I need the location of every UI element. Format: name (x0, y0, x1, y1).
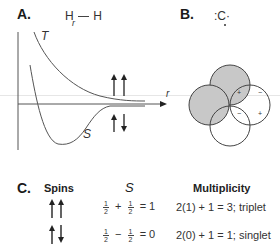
sign-top-left: + (237, 89, 241, 96)
axis-label-r: r (166, 88, 169, 99)
spin-arrows (45, 196, 75, 246)
orbital-lobe-left (189, 85, 229, 125)
carbon-species: :C· (214, 9, 230, 23)
multiplicity-row-1: 2(1) + 1 = 3; triplet (176, 201, 266, 213)
orbital-lobe-bottom (210, 106, 250, 146)
header-s: S (125, 180, 134, 195)
multiplicity-row-2: 2(0) + 1 = 1; singlet (176, 229, 271, 241)
p-orbital-diagram (180, 55, 280, 155)
s-row-1: 12 + 12 = 1 (103, 200, 155, 215)
fraction-b: 12 (128, 200, 134, 215)
panel-c-label: C. (17, 180, 31, 196)
up-up-arrows-icon (111, 74, 127, 96)
panel-b-label: B. (180, 6, 194, 22)
s-result: = 1 (140, 200, 156, 212)
sign-bottom-left: − (237, 110, 241, 117)
s-result: = 0 (140, 228, 156, 240)
triplet-curve (34, 32, 145, 101)
lone-dot-below (224, 24, 226, 26)
fraction-b: 12 (128, 228, 134, 243)
operator: + (115, 200, 121, 212)
sign-top-right: − (258, 89, 262, 96)
s-row-2: 12 − 12 = 0 (103, 228, 155, 243)
carbon-symbol: :C· (214, 9, 230, 23)
fraction-a: 12 (103, 200, 109, 215)
operator: − (115, 228, 121, 240)
fraction-a: 12 (103, 228, 109, 243)
header-multiplicity: Multiplicity (193, 182, 250, 194)
curve-label-s: S (83, 127, 91, 141)
sign-bottom-right: + (258, 110, 262, 117)
orbital-lobe-right (230, 85, 270, 125)
potential-energy-plot (0, 0, 180, 170)
x-axis-arrow-icon (160, 101, 167, 107)
curve-label-t: T (41, 29, 48, 43)
up-down-arrows-icon (111, 114, 127, 132)
row2-up-down-icon (49, 225, 64, 244)
header-spins: Spins (44, 182, 74, 194)
row1-up-up-icon (49, 199, 64, 218)
